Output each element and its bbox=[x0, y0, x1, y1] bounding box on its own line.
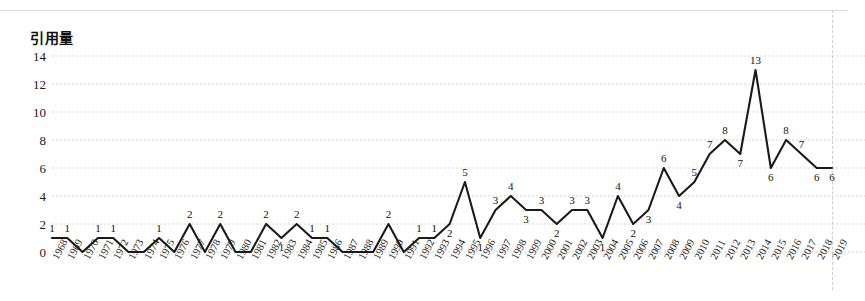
line-series-svg bbox=[52, 56, 832, 252]
data-label-1997: 3 bbox=[489, 195, 503, 206]
data-label-1992: 1 bbox=[412, 223, 426, 234]
data-label-1969: 1 bbox=[60, 223, 74, 234]
data-label-2014: 13 bbox=[749, 55, 763, 66]
data-label-2006: 2 bbox=[626, 228, 640, 239]
data-label-1971: 1 bbox=[91, 223, 105, 234]
data-label-1977: 2 bbox=[183, 209, 197, 220]
data-label-1985: 1 bbox=[305, 223, 319, 234]
y-tick-label-8: 8 bbox=[20, 134, 46, 147]
data-label-2013: 7 bbox=[733, 158, 747, 169]
data-label-2003: 3 bbox=[580, 195, 594, 206]
data-label-1968: 1 bbox=[45, 223, 59, 234]
data-label-1998: 4 bbox=[504, 181, 518, 192]
data-label-1994: 2 bbox=[443, 228, 457, 239]
data-label-2002: 3 bbox=[565, 195, 579, 206]
data-label-1979: 2 bbox=[213, 209, 227, 220]
y-tick-label-6: 6 bbox=[20, 162, 46, 175]
data-label-1983: 1 bbox=[274, 242, 288, 253]
citation-count-series-line bbox=[52, 70, 832, 252]
data-label-2001: 2 bbox=[550, 228, 564, 239]
figure-top-rule bbox=[0, 10, 848, 11]
data-label-2011: 7 bbox=[703, 139, 717, 150]
data-label-1990: 2 bbox=[381, 209, 395, 220]
data-label-1999: 3 bbox=[519, 214, 533, 225]
y-tick-label-2: 2 bbox=[20, 218, 46, 231]
plot-area bbox=[52, 56, 832, 252]
data-label-2019: 6 bbox=[825, 172, 839, 183]
y-tick-label-0: 0 bbox=[20, 246, 46, 259]
data-label-2017: 7 bbox=[794, 139, 808, 150]
data-label-2005: 4 bbox=[611, 181, 625, 192]
data-label-1996: 1 bbox=[473, 242, 487, 253]
y-tick-label-4: 4 bbox=[20, 190, 46, 203]
data-label-2000: 3 bbox=[534, 195, 548, 206]
data-label-1975: 1 bbox=[152, 223, 166, 234]
data-label-2008: 6 bbox=[657, 153, 671, 164]
data-label-2007: 3 bbox=[641, 214, 655, 225]
data-label-2004: 1 bbox=[596, 242, 610, 253]
data-label-2018: 6 bbox=[810, 172, 824, 183]
data-label-1984: 2 bbox=[290, 209, 304, 220]
y-tick-label-10: 10 bbox=[20, 106, 46, 119]
y-tick-label-14: 14 bbox=[20, 50, 46, 63]
data-label-2012: 8 bbox=[718, 125, 732, 136]
data-label-1972: 1 bbox=[106, 223, 120, 234]
x-axis-tick-labels: 1968196919701971197219731974197519761977… bbox=[52, 256, 842, 301]
data-label-1995: 5 bbox=[458, 167, 472, 178]
y-tick-label-12: 12 bbox=[20, 78, 46, 91]
data-label-1993: 1 bbox=[427, 223, 441, 234]
data-label-1986: 1 bbox=[320, 223, 334, 234]
data-label-2015: 6 bbox=[764, 172, 778, 183]
data-label-2010: 5 bbox=[687, 167, 701, 178]
data-label-2009: 4 bbox=[672, 200, 686, 211]
y-axis-tick-labels: 02468101214 bbox=[20, 0, 50, 301]
data-label-2016: 8 bbox=[779, 125, 793, 136]
data-label-1982: 2 bbox=[259, 209, 273, 220]
citation-count-line-chart-figure: 引用量 02468101214 196819691970197119721973… bbox=[0, 0, 865, 301]
